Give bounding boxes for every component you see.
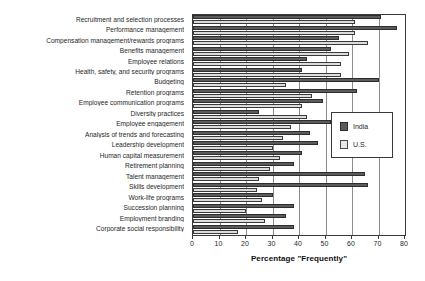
bar-us <box>193 62 341 66</box>
x-axis: 01020304050607080 <box>192 236 406 250</box>
category-label: Retirement planning <box>0 162 184 169</box>
bar-group <box>193 172 405 182</box>
bar-us <box>193 31 355 35</box>
bar-india <box>193 141 318 145</box>
bar-us <box>193 230 238 234</box>
bar-us <box>193 177 259 181</box>
legend-label-india: India <box>353 123 368 130</box>
category-label: Employee communication programs <box>0 99 184 106</box>
bar-india <box>193 99 323 103</box>
x-tick-label: 80 <box>394 240 414 247</box>
bar-india <box>193 78 379 82</box>
x-tick-label: 10 <box>209 240 229 247</box>
x-tick-mark <box>351 236 352 239</box>
bar-india <box>193 204 294 208</box>
bar-us <box>193 198 262 202</box>
bar-group <box>193 57 405 67</box>
bar-us <box>193 94 312 98</box>
x-tick-label: 30 <box>262 240 282 247</box>
bar-group <box>193 36 405 46</box>
category-label: Corporate social responsibility <box>0 225 184 232</box>
category-label: Succession planning <box>0 204 184 211</box>
category-label: Retention programs <box>0 89 184 96</box>
bar-group <box>193 89 405 99</box>
bar-india <box>193 36 339 40</box>
bar-india <box>193 131 310 135</box>
category-label: Human capital measurement <box>0 152 184 159</box>
bar-india <box>193 225 294 229</box>
category-label: Employee engagement <box>0 120 184 127</box>
category-label: Benefits management <box>0 47 184 54</box>
category-label: Diversity practices <box>0 110 184 117</box>
legend-item-india: India <box>340 122 368 131</box>
x-tick-mark <box>192 236 193 239</box>
bar-us <box>193 73 341 77</box>
bar-india <box>193 57 307 61</box>
bar-us <box>193 156 280 160</box>
x-tick-label: 0 <box>182 240 202 247</box>
category-label: Employee relations <box>0 58 184 65</box>
x-tick-label: 50 <box>315 240 335 247</box>
bar-us <box>193 136 283 140</box>
chart-legend: India U.S. <box>331 112 393 158</box>
category-label: Work-life programs <box>0 194 184 201</box>
legend-swatch-india <box>340 122 348 131</box>
bar-us <box>193 104 302 108</box>
bar-us <box>193 188 257 192</box>
category-label: Performance management <box>0 26 184 33</box>
bar-us <box>193 125 291 129</box>
x-tick-label: 40 <box>288 240 308 247</box>
category-axis-labels: Recruitment and selection processesPerfo… <box>0 14 188 234</box>
bar-india <box>193 172 365 176</box>
category-label: Employment branding <box>0 215 184 222</box>
bar-india <box>193 110 259 114</box>
x-tick-mark <box>272 236 273 239</box>
bar-india <box>193 193 273 197</box>
x-tick-mark <box>325 236 326 239</box>
bar-group <box>193 26 405 36</box>
x-tick-label: 60 <box>341 240 361 247</box>
bar-group <box>193 193 405 203</box>
bar-group <box>193 225 405 235</box>
x-tick-mark <box>219 236 220 239</box>
bar-us <box>193 209 246 213</box>
x-tick-mark <box>378 236 379 239</box>
bar-india <box>193 162 294 166</box>
legend-label-us: U.S. <box>353 141 367 148</box>
bar-group <box>193 78 405 88</box>
bar-us <box>193 146 273 150</box>
bar-india <box>193 15 381 19</box>
category-label: Leadership development <box>0 141 184 148</box>
bar-us <box>193 41 368 45</box>
bar-us <box>193 219 265 223</box>
x-tick-mark <box>245 236 246 239</box>
bar-india <box>193 89 357 93</box>
category-label: Talent management <box>0 173 184 180</box>
bar-group <box>193 204 405 214</box>
bar-india <box>193 26 397 30</box>
x-tick-mark <box>298 236 299 239</box>
x-tick-mark <box>404 236 405 239</box>
category-label: Compensation management/rewards programs <box>0 37 184 44</box>
bar-us <box>193 115 307 119</box>
bar-group <box>193 68 405 78</box>
bar-india <box>193 214 286 218</box>
bar-group <box>193 47 405 57</box>
bar-chart: Recruitment and selection processesPerfo… <box>0 0 425 281</box>
x-tick-label: 70 <box>368 240 388 247</box>
bar-india <box>193 151 302 155</box>
bar-india <box>193 120 331 124</box>
category-label: Skills development <box>0 183 184 190</box>
bar-us <box>193 167 270 171</box>
bar-group <box>193 162 405 172</box>
bar-india <box>193 68 302 72</box>
bar-group <box>193 15 405 25</box>
bar-group <box>193 214 405 224</box>
bar-us <box>193 20 355 24</box>
bar-us <box>193 52 349 56</box>
bar-india <box>193 47 331 51</box>
bar-group <box>193 99 405 109</box>
legend-item-us: U.S. <box>340 140 367 149</box>
bar-group <box>193 183 405 193</box>
category-label: Recruitment and selection processes <box>0 16 184 23</box>
